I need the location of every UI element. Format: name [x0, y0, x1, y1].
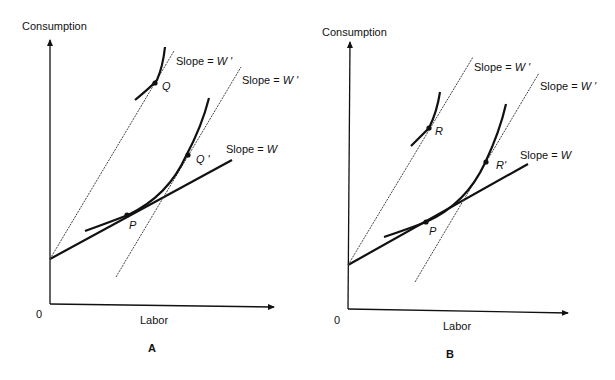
slope-label-w-prime-1: Slope = W ' — [474, 61, 531, 73]
panel-caption: B — [446, 348, 454, 360]
y-axis-label: Consumption — [322, 26, 387, 38]
point-q-prime — [185, 152, 190, 157]
panel-caption: A — [148, 342, 156, 354]
label-r: R — [435, 125, 443, 137]
x-axis — [50, 304, 274, 307]
origin-label: 0 — [334, 314, 340, 326]
slope-label-w-prime-1: Slope = W ' — [176, 55, 233, 67]
slope-label-w-prime-2: Slope = W ' — [242, 74, 299, 86]
point-q — [152, 80, 157, 85]
slope-label-w-prime-2: Slope = W ' — [540, 80, 597, 92]
panel-a: Consumption Labor 0 A Q Q ' P Slope = W … — [22, 20, 299, 354]
y-axis — [348, 42, 350, 309]
budget-line-w-prime-upper — [348, 57, 473, 265]
label-p: P — [129, 219, 137, 231]
x-axis-label: Labor — [140, 314, 168, 326]
label-r-prime: R' — [496, 159, 507, 171]
panel-b: Consumption Labor 0 B R R' P Slope = W '… — [322, 26, 597, 360]
indifference-curve-upper — [411, 92, 440, 146]
slope-label-w: Slope = W — [226, 143, 279, 155]
y-axis-label: Consumption — [22, 20, 87, 32]
label-p: P — [429, 225, 437, 237]
point-r — [426, 125, 431, 130]
point-p — [124, 212, 129, 217]
point-p — [423, 219, 428, 224]
budget-line-w — [50, 160, 232, 259]
label-q-prime: Q ' — [196, 153, 211, 165]
origin-label: 0 — [36, 308, 42, 320]
label-q: Q — [162, 80, 171, 92]
x-axis-label: Labor — [443, 320, 471, 332]
budget-line-w — [348, 164, 528, 265]
labor-supply-diagrams: Consumption Labor 0 A Q Q ' P Slope = W … — [0, 0, 615, 380]
point-r-prime — [483, 159, 488, 164]
indifference-curve-lower — [85, 98, 209, 231]
slope-label-w: Slope = W — [520, 149, 573, 161]
x-axis — [348, 309, 568, 313]
indifference-curve-upper — [135, 47, 165, 100]
indifference-curve-lower — [384, 104, 506, 237]
